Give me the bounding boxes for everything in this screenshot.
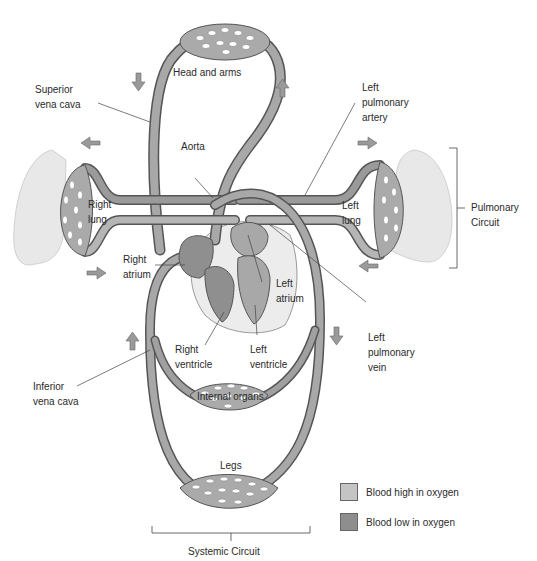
label-left-lung: Left lung: [342, 198, 361, 228]
arrow-left-icon: [359, 260, 378, 272]
legend-item-low-oxygen: Blood low in oxygen: [340, 513, 455, 531]
label-head-and-arms: Head and arms: [173, 65, 241, 80]
arrow-left-icon: [81, 137, 100, 149]
arrow-down-icon: [330, 327, 343, 345]
label-right-lung: Right lung: [88, 197, 111, 227]
label-legs: Legs: [220, 458, 242, 473]
legend-swatch-high: [340, 483, 358, 501]
label-left-pulmonary-artery: Left pulmonary artery: [362, 80, 409, 125]
legend-label-high: Blood high in oxygen: [366, 487, 459, 498]
label-systemic-circuit: Systemic Circuit: [188, 544, 260, 559]
label-superior-vena-cava: Superior vena cava: [35, 82, 81, 112]
label-left-ventricle: Left ventricle: [250, 342, 287, 372]
label-right-atrium: Right atrium: [123, 252, 151, 282]
label-internal-organs: Internal organs: [197, 389, 264, 404]
legend-item-high-oxygen: Blood high in oxygen: [340, 483, 459, 501]
arrow-right-icon: [358, 137, 377, 149]
legend-label-low: Blood low in oxygen: [366, 517, 455, 528]
arrow-right-icon: [87, 267, 106, 279]
label-inferior-vena-cava: Inferior vena cava: [33, 379, 79, 409]
label-pulmonary-circuit: Pulmonary Circuit: [471, 200, 519, 230]
arrow-up-icon: [126, 332, 139, 350]
label-left-pulmonary-vein: Left pulmonary vein: [368, 330, 415, 375]
label-left-atrium: Left atrium: [276, 276, 304, 306]
systemic-bracket: [152, 526, 310, 541]
legend-swatch-low: [340, 513, 358, 531]
label-right-ventricle: Right ventricle: [175, 342, 212, 372]
arrow-down-icon: [132, 73, 145, 91]
right-lung-silhouette: [14, 150, 66, 265]
label-aorta: Aorta: [181, 139, 205, 154]
